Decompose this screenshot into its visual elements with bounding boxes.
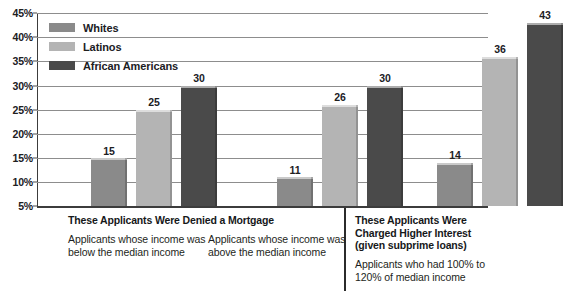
bar-highlight [277, 177, 313, 179]
bar-whites-group2: 11 [277, 177, 313, 206]
bar-highlight [527, 23, 563, 25]
bar-latinos-group1: 25 [136, 110, 172, 207]
bar-shadow [215, 86, 218, 207]
y-tick-label: 35% [0, 55, 33, 67]
legend-swatch-latinos [49, 42, 75, 51]
bar-highlight [181, 86, 217, 88]
bar-latinos-group3: 36 [482, 57, 518, 207]
caption-interest-heading-text: These Applicants Were Charged Higher Int… [355, 214, 485, 252]
bar-value-label: 14 [449, 150, 461, 161]
caption-denied-below-text: Applicants whose income was below the me… [68, 233, 208, 258]
legend-item-whites: Whites [49, 18, 224, 37]
caption-denied-above-text: Applicants whose income was above the me… [208, 233, 348, 258]
y-axis: 45%40%35%30%25%20%15%10%5% [0, 8, 33, 208]
legend-item-african-americans: African Americans [49, 56, 224, 75]
legend-label-latinos: Latinos [83, 41, 121, 53]
bar-shadow [125, 158, 128, 206]
y-tick-label: 25% [0, 104, 33, 116]
bar-shadow [311, 177, 314, 206]
bar-highlight [91, 158, 127, 160]
bar-highlight [367, 86, 403, 88]
caption-interest-median-text: Applicants who had 100% to 120% of media… [355, 258, 485, 283]
y-tick-label: 40% [0, 31, 33, 43]
bar-value-label: 43 [539, 10, 551, 21]
bar-value-label: 15 [103, 146, 115, 157]
legend-swatch-whites [49, 23, 75, 32]
legend: Whites Latinos African Americans [49, 18, 224, 75]
bar-highlight [482, 57, 518, 59]
captions: These Applicants Were Denied a Mortgage … [0, 208, 488, 291]
bar-african-americans-group3: 43 [527, 23, 563, 207]
bar-value-label: 11 [289, 165, 300, 176]
bar-value-label: 36 [494, 44, 506, 55]
caption-denied-heading: These Applicants Were Denied a Mortgage [68, 214, 340, 227]
y-tick-label: 15% [0, 152, 33, 164]
y-tick-label: 30% [0, 80, 33, 92]
bar-value-label: 30 [379, 73, 391, 84]
bar-shadow [516, 57, 519, 207]
caption-denied-heading-text: These Applicants Were Denied a Mortgage [68, 214, 340, 227]
caption-interest-median: Applicants who had 100% to 120% of media… [355, 258, 485, 283]
legend-label-african-americans: African Americans [83, 60, 178, 72]
bar-highlight [322, 105, 358, 107]
y-tick-label: 10% [0, 176, 33, 188]
bar-african-americans-group1: 30 [181, 86, 217, 207]
y-tick-label: 20% [0, 128, 33, 140]
bar-latinos-group2: 26 [322, 105, 358, 207]
bar-value-label: 26 [334, 92, 346, 103]
caption-denied-below: Applicants whose income was below the me… [68, 233, 208, 258]
y-tick-label: 45% [0, 7, 33, 19]
bar-shadow [401, 86, 404, 207]
legend-item-latinos: Latinos [49, 37, 224, 56]
bar-shadow [356, 105, 359, 207]
bar-highlight [136, 110, 172, 112]
bar-highlight [437, 163, 473, 165]
legend-swatch-african-americans [49, 61, 75, 70]
bar-african-americans-group2: 30 [367, 86, 403, 207]
caption-denied-above: Applicants whose income was above the me… [208, 233, 348, 258]
bar-whites-group1: 15 [91, 158, 127, 206]
bar-shadow [471, 163, 474, 207]
bar-value-label: 25 [148, 97, 160, 108]
caption-interest-heading: These Applicants Were Charged Higher Int… [355, 214, 485, 252]
bar-whites-group3: 14 [437, 163, 473, 207]
legend-label-whites: Whites [83, 22, 118, 34]
bar-shadow [170, 110, 173, 207]
